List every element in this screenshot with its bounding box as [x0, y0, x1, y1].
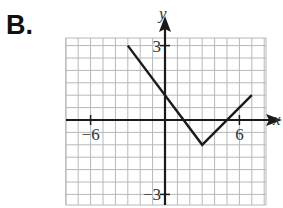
axis-labels: −663−3xy [82, 4, 281, 204]
x-axis-label: x [272, 110, 281, 129]
x-tick-label: −6 [82, 125, 100, 144]
y-tick-label: −3 [143, 185, 161, 204]
y-axis-label: y [157, 4, 167, 23]
coordinate-plane: −663−3xy [0, 0, 283, 208]
y-tick-label: 3 [153, 37, 162, 56]
axes [66, 16, 282, 205]
x-tick-label: 6 [235, 125, 244, 144]
